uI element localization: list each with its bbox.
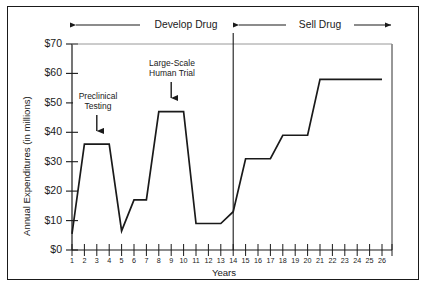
x-axis-title: Years bbox=[194, 268, 254, 279]
y-axis-title: Annual Expenditures (in millions) bbox=[22, 96, 33, 236]
x-tick-label-26: 26 bbox=[375, 257, 389, 265]
phase-label-sell-drug: Sell Drug bbox=[286, 19, 354, 31]
y-tick-label-70: $70 bbox=[28, 38, 62, 50]
chart-canvas bbox=[0, 0, 428, 289]
y-tick-label-30: $30 bbox=[28, 156, 62, 168]
y-tick-label-50: $50 bbox=[28, 97, 62, 109]
y-tick-label-40: $40 bbox=[28, 126, 62, 138]
annotation-trial-line2: Human Trial bbox=[149, 68, 195, 78]
chart-figure: $0 $10 $20 $30 $40 $50 $60 $70 1 2 3 4 5… bbox=[0, 0, 428, 289]
y-tick-label-0: $0 bbox=[28, 244, 62, 256]
annotation-preclinical-line2: Testing bbox=[85, 101, 112, 111]
y-tick-label-60: $60 bbox=[28, 67, 62, 79]
y-tick-label-20: $20 bbox=[28, 185, 62, 197]
annotation-large-scale-human-trial: Large-Scale Human Trial bbox=[142, 59, 202, 78]
y-tick-label-10: $10 bbox=[28, 215, 62, 227]
annotation-preclinical-testing: Preclinical Testing bbox=[73, 92, 123, 111]
annotation-trial-line1: Large-Scale bbox=[149, 58, 195, 68]
phase-label-develop-drug: Develop Drug bbox=[140, 19, 232, 31]
annotation-preclinical-line1: Preclinical bbox=[79, 91, 118, 101]
